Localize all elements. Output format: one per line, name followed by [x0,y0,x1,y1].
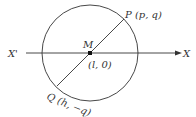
label-x-prime: X' [7,48,18,59]
label-p: P (p, q) [124,9,162,20]
circle-diagram: X' X M (l, 0) P (p, q) Q (h, −q) [0,0,196,117]
x-axis-arrowhead [175,51,182,56]
label-m: M [82,39,94,50]
label-x: X [182,48,191,59]
center-point-m [88,51,92,55]
label-m-coords: (l, 0) [88,59,112,70]
label-q: Q (h, −q) [45,91,93,117]
